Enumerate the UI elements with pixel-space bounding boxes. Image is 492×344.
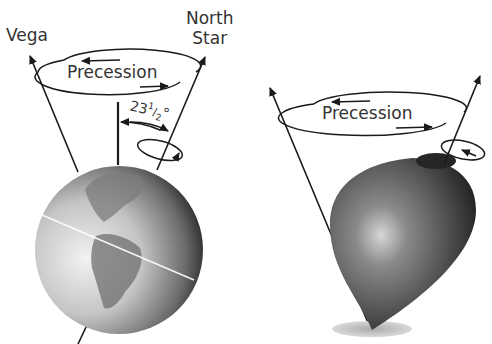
north-star-label-line2: Star xyxy=(192,28,227,48)
tilt-angle-whole: 23 xyxy=(129,98,150,117)
earth-precession-figure xyxy=(30,49,205,344)
vega-label: Vega xyxy=(6,25,48,45)
spinning-top-body xyxy=(330,158,476,330)
left-precession-label: Precession xyxy=(67,62,157,82)
north-star-label-line1: North xyxy=(186,8,234,28)
north-star-label: North Star xyxy=(186,8,234,48)
precession-diagram xyxy=(0,0,492,344)
right-precession-label: Precession xyxy=(322,103,412,123)
